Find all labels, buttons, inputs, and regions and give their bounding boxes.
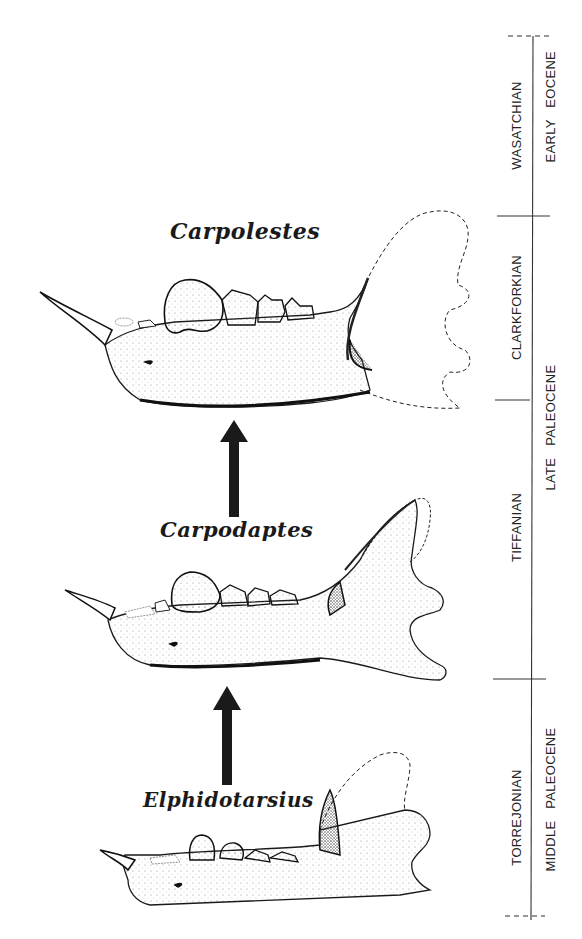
- arrow-carpodaptes-to-carpolestes: [220, 420, 248, 517]
- epoch-label-middle-paleocene: MIDDLE PALEOCENE: [543, 725, 558, 875]
- elphidotarsius-jaw: [100, 752, 430, 905]
- stage-label-torrejonian: TORREJONIAN: [509, 763, 524, 873]
- stage-label-clarkforkian: CLARKFORKIAN: [509, 253, 524, 363]
- stage-label-tiffanian: TIFFANIAN: [509, 483, 524, 573]
- epoch-label-late-paleocene: LATE PALEOCENE: [543, 358, 558, 498]
- arrow-elphidotarsius-to-carpodaptes: [213, 686, 241, 785]
- figure-canvas: Carpolestes Carpodaptes Elphidotarsius W…: [0, 0, 582, 939]
- stage-label-wasatchian: WASATCHIAN: [509, 76, 524, 176]
- taxon-label-carpolestes: Carpolestes: [170, 218, 320, 244]
- taxon-label-carpodaptes: Carpodaptes: [160, 517, 313, 542]
- taxon-label-elphidotarsius: Elphidotarsius: [143, 788, 314, 812]
- epoch-label-early-eocene: EARLY EOCENE: [543, 53, 558, 163]
